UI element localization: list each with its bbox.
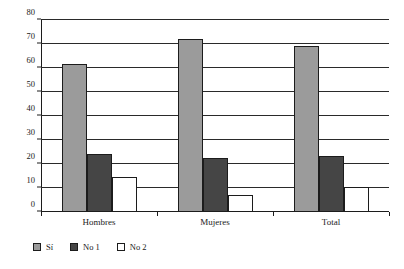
legend-item-no1[interactable]: No 1 bbox=[70, 243, 100, 252]
bars-layer bbox=[41, 20, 389, 212]
y-tick-label: 0 bbox=[31, 199, 35, 208]
bar-group-total bbox=[273, 20, 389, 212]
y-tick-label: 80 bbox=[27, 7, 36, 16]
legend-item-si[interactable]: Sí bbox=[33, 243, 53, 252]
bar-hombres-si bbox=[62, 64, 87, 212]
bar-total-no2 bbox=[344, 187, 369, 212]
bar-group-hombres bbox=[41, 20, 157, 212]
x-axis-labels: HombresMujeresTotal bbox=[41, 214, 389, 230]
x-tick-mark bbox=[389, 212, 390, 216]
legend-swatch-icon bbox=[70, 243, 78, 251]
y-tick-label: 30 bbox=[27, 127, 36, 136]
bar-total-si bbox=[294, 46, 319, 212]
y-tick-label: 10 bbox=[27, 175, 36, 184]
bar-group-mujeres bbox=[157, 20, 273, 212]
legend-swatch-icon bbox=[117, 243, 125, 251]
y-tick-label: 50 bbox=[27, 79, 36, 88]
x-axis-label: Total bbox=[273, 214, 389, 230]
y-tick-label: 20 bbox=[27, 151, 36, 160]
bar-hombres-no2 bbox=[112, 177, 137, 212]
legend-swatch-icon bbox=[33, 243, 41, 251]
legend-label: No 2 bbox=[130, 243, 147, 252]
bar-mujeres-no2 bbox=[228, 195, 253, 212]
y-tick-label: 40 bbox=[27, 103, 36, 112]
legend-item-no2[interactable]: No 2 bbox=[117, 243, 147, 252]
bar-chart: 01020304050607080 HombresMujeresTotal Sí… bbox=[0, 0, 404, 269]
legend-label: Sí bbox=[46, 243, 53, 252]
legend-label: No 1 bbox=[83, 243, 100, 252]
bar-total-no1 bbox=[319, 156, 344, 212]
y-tick-label: 70 bbox=[27, 31, 36, 40]
plot-area: 01020304050607080 bbox=[41, 20, 389, 212]
chart-legend: SíNo 1No 2 bbox=[33, 243, 147, 252]
bar-mujeres-no1 bbox=[203, 158, 228, 212]
x-axis-label: Hombres bbox=[41, 214, 157, 230]
bar-mujeres-si bbox=[178, 39, 203, 212]
y-tick-label: 60 bbox=[27, 55, 36, 64]
x-axis-label: Mujeres bbox=[157, 214, 273, 230]
bar-hombres-no1 bbox=[87, 154, 112, 212]
